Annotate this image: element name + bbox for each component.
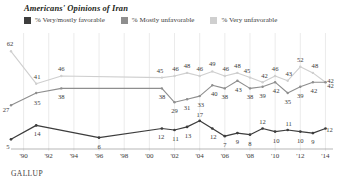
data-point xyxy=(236,80,238,82)
data-point xyxy=(10,50,12,52)
data-label: 8 xyxy=(248,139,251,146)
x-axis-tick-label: '10 xyxy=(271,152,279,160)
data-label: 43 xyxy=(285,69,292,76)
data-label: 12 xyxy=(326,126,333,133)
data-point xyxy=(274,81,276,83)
data-label: 11 xyxy=(286,120,292,127)
data-label: 33 xyxy=(197,101,204,108)
data-label: 42 xyxy=(311,87,318,94)
data-point xyxy=(35,83,37,85)
data-label: 31 xyxy=(184,104,191,111)
data-label: 49 xyxy=(209,60,216,67)
data-point xyxy=(224,87,226,89)
data-label: 35 xyxy=(284,98,291,105)
data-label: 45 xyxy=(157,66,164,73)
x-axis: '90'92'94'96'98'00'02'04'06'08'10'12'14 xyxy=(0,148,340,166)
chart-legend: % Very/mostly favorable % Mostly unfavor… xyxy=(24,16,277,24)
x-axis-tick-label: '00 xyxy=(145,152,153,160)
data-label: 42 xyxy=(261,72,268,79)
data-label: 46 xyxy=(272,65,279,72)
data-point xyxy=(223,135,226,138)
data-label: 7 xyxy=(223,141,226,148)
legend-item-mostly-unfavorable: % Mostly unfavorable xyxy=(121,16,195,24)
data-point xyxy=(236,132,239,135)
data-label: 46 xyxy=(196,65,203,72)
data-point xyxy=(173,101,175,103)
data-label: 48 xyxy=(234,61,241,68)
data-label: 38 xyxy=(247,93,254,100)
data-label: 39 xyxy=(259,91,266,98)
data-label: 14 xyxy=(34,130,41,137)
data-point xyxy=(161,76,163,78)
data-label: 48 xyxy=(312,61,319,68)
source-credit: GALLUP xyxy=(11,169,43,178)
x-axis-tick-label: '98 xyxy=(120,152,128,160)
legend-swatch-icon xyxy=(210,17,217,24)
data-point xyxy=(10,138,13,141)
data-label: 6 xyxy=(97,142,100,149)
data-label: 9 xyxy=(236,138,239,145)
data-point xyxy=(186,72,188,74)
data-point xyxy=(224,75,226,77)
data-label: 41 xyxy=(34,72,41,79)
x-axis-tick-label: '08 xyxy=(246,152,254,160)
data-label: 62 xyxy=(7,40,14,47)
data-label: 45 xyxy=(244,66,251,73)
data-label: 48 xyxy=(184,61,191,68)
data-label: 38 xyxy=(222,93,229,100)
data-point xyxy=(186,98,188,100)
data-point xyxy=(199,75,201,77)
data-point xyxy=(60,75,62,77)
data-point xyxy=(287,80,289,82)
data-label: 46 xyxy=(223,65,230,72)
data-point xyxy=(199,95,201,97)
data-point xyxy=(35,92,37,94)
data-point xyxy=(249,133,252,136)
x-axis-tick-label: '94 xyxy=(70,152,78,160)
data-point xyxy=(261,86,263,88)
data-point xyxy=(299,130,302,133)
data-label: 46 xyxy=(58,65,65,72)
legend-swatch-icon xyxy=(24,17,31,24)
chart-title: Americans' Opinions of Iran xyxy=(24,3,128,13)
data-point xyxy=(211,70,213,72)
data-point xyxy=(261,81,263,83)
data-label: 9 xyxy=(311,138,314,145)
x-axis-tick-label: '04 xyxy=(196,152,204,160)
legend-item-very-unfavorable: % Very unfavorable xyxy=(210,16,277,24)
data-point xyxy=(60,87,62,89)
data-point xyxy=(312,132,315,135)
data-label: 39 xyxy=(297,91,304,98)
plot-area xyxy=(0,33,340,151)
data-point xyxy=(161,87,163,89)
data-point xyxy=(186,126,189,129)
data-point xyxy=(261,127,264,130)
data-point xyxy=(249,76,251,78)
data-label: 40 xyxy=(211,90,218,97)
data-point xyxy=(173,129,176,132)
x-axis-tick-label: '12 xyxy=(296,152,304,160)
data-point xyxy=(173,75,175,77)
data-point xyxy=(299,66,301,68)
data-label: 12 xyxy=(158,133,165,140)
data-label: 42 xyxy=(327,82,334,89)
x-axis-tick-label: '06 xyxy=(221,152,229,160)
data-point xyxy=(211,127,214,130)
data-label: 43 xyxy=(235,85,242,92)
data-label: 38 xyxy=(58,93,65,100)
data-label: 17 xyxy=(196,110,203,117)
data-label: 5 xyxy=(6,143,9,150)
legend-label: % Very unfavorable xyxy=(221,16,277,24)
data-point xyxy=(312,72,314,74)
legend-swatch-icon xyxy=(121,17,128,24)
data-point xyxy=(249,87,251,89)
data-point xyxy=(299,86,301,88)
x-axis-tick-label: '02 xyxy=(170,152,178,160)
data-point xyxy=(211,84,213,86)
data-point xyxy=(286,129,289,132)
data-label: 35 xyxy=(34,99,41,106)
data-point xyxy=(35,124,38,127)
data-label: 10 xyxy=(297,136,304,143)
data-point xyxy=(236,72,238,74)
data-label: 38 xyxy=(159,93,166,100)
